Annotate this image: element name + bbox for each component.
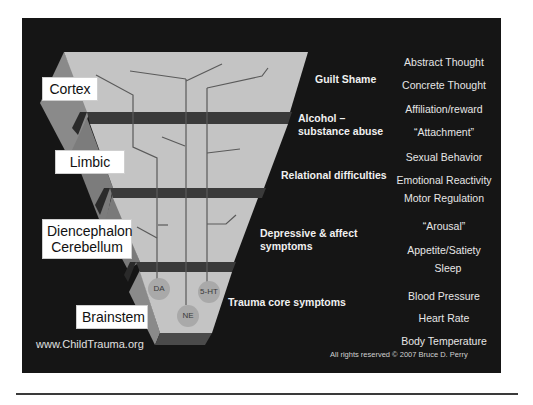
function-label: Sleep xyxy=(388,262,508,274)
function-label: “Arousal” xyxy=(384,220,504,232)
function-label: Blood Pressure xyxy=(384,290,504,302)
symptom-relational-difficulties: Relational difficulties xyxy=(281,169,387,182)
symptom-trauma-core: Trauma core symptoms xyxy=(228,296,346,309)
copyright-notice: All rights reserved © 2007 Bruce D. Perr… xyxy=(330,350,468,359)
symptom-guilt-shame: Guilt Shame xyxy=(315,73,376,86)
function-label: Heart Rate xyxy=(384,312,504,324)
region-label-line: Diencephalon xyxy=(47,223,127,239)
neurotransmitter-ne: NE xyxy=(177,305,199,327)
symptom-line: Alcohol – xyxy=(298,112,383,125)
function-label: Affiliation/reward xyxy=(384,103,504,115)
region-label-brainstem: Brainstem xyxy=(76,305,148,329)
region-label-diencephalon-cerebellum: Diencephalon Cerebellum xyxy=(42,219,132,259)
function-label: Concrete Thought xyxy=(384,79,504,91)
neurotransmitter-da: DA xyxy=(148,278,170,300)
region-label-line: Cerebellum xyxy=(47,239,127,255)
horizontal-rule xyxy=(16,393,518,395)
function-label: “Attachment” xyxy=(384,126,504,138)
separator-bar xyxy=(110,188,266,198)
function-label: Motor Regulation xyxy=(384,192,504,204)
symptom-line: Depressive & affect xyxy=(260,227,357,240)
function-label: Appetite/Satiety xyxy=(384,244,504,256)
symptom-depressive-affect: Depressive & affect symptoms xyxy=(260,227,357,253)
function-label: Emotional Reactivity xyxy=(384,174,504,186)
brainstem-bottom-face xyxy=(155,333,212,345)
function-label: Abstract Thought xyxy=(384,56,504,68)
neurotransmitter-5ht: 5-HT xyxy=(198,281,220,303)
region-label-cortex: Cortex xyxy=(42,77,98,101)
symptom-line: substance abuse xyxy=(298,125,383,138)
website-url: www.ChildTrauma.org xyxy=(36,338,144,350)
symptom-line: symptoms xyxy=(260,240,357,253)
region-label-limbic: Limbic xyxy=(55,150,125,174)
symptom-alcohol-substance-abuse: Alcohol – substance abuse xyxy=(298,112,383,138)
separator-bar xyxy=(87,112,292,124)
function-label: Body Temperature xyxy=(384,335,504,347)
function-label: Sexual Behavior xyxy=(384,151,504,163)
